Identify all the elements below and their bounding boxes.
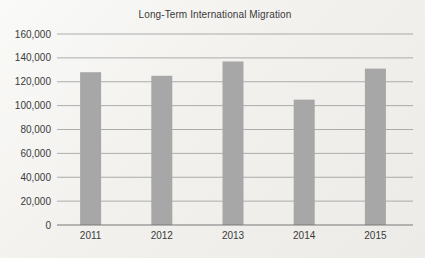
y-tick-label: 120,000: [15, 76, 52, 87]
x-tick-label-2011: 2011: [80, 230, 102, 241]
y-tick-label: 20,000: [20, 196, 51, 207]
y-tick-label: 160,000: [15, 29, 52, 40]
chart-page: Long-Term International Migration 020,00…: [0, 0, 425, 258]
bar-chart: Long-Term International Migration 020,00…: [0, 0, 425, 258]
bar-2012: [151, 76, 172, 225]
y-tick-label: 100,000: [15, 100, 52, 111]
y-tick-label: 60,000: [20, 148, 51, 159]
bar-2014: [294, 100, 315, 225]
x-tick-label-2013: 2013: [222, 230, 245, 241]
chart-title: Long-Term International Migration: [139, 9, 292, 20]
y-tick-label: 140,000: [15, 52, 52, 63]
bar-2013: [223, 61, 244, 225]
x-tick-label-2012: 2012: [151, 230, 174, 241]
y-tick-label: 0: [45, 220, 51, 231]
bar-2015: [365, 69, 386, 225]
axis-labels: 020,00040,00060,00080,000100,000120,0001…: [15, 29, 413, 242]
bars: [80, 61, 386, 225]
y-tick-label: 40,000: [20, 172, 51, 183]
bar-2011: [80, 72, 101, 225]
x-tick-label-2014: 2014: [293, 230, 316, 241]
x-tick-label-2015: 2015: [364, 230, 387, 241]
y-tick-label: 80,000: [20, 124, 51, 135]
